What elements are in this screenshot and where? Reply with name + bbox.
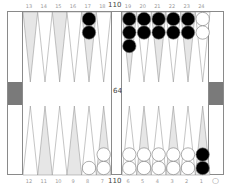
- white-checker[interactable]: [123, 161, 136, 174]
- black-checker[interactable]: [123, 12, 136, 25]
- point-18[interactable]: [96, 12, 111, 82]
- point-label-19: 19: [121, 3, 135, 9]
- black-checker[interactable]: [181, 12, 194, 25]
- point-label-21: 21: [150, 3, 164, 9]
- backgammon-board: 64: [7, 11, 224, 175]
- white-checker[interactable]: [97, 161, 110, 174]
- point-label-20: 20: [136, 3, 150, 9]
- point-9[interactable]: [67, 106, 82, 175]
- point-label-15: 15: [51, 3, 65, 9]
- black-checker[interactable]: [82, 26, 95, 39]
- black-checker[interactable]: [196, 148, 209, 161]
- black-checker[interactable]: [167, 26, 180, 39]
- point-13[interactable]: [23, 12, 38, 82]
- point-label-4: 4: [150, 178, 164, 184]
- point-label-23: 23: [180, 3, 194, 9]
- point-label-9: 9: [66, 178, 80, 184]
- white-checker[interactable]: [123, 148, 136, 161]
- white-checker[interactable]: [82, 161, 95, 174]
- point-15[interactable]: [52, 12, 67, 82]
- point-label-8: 8: [81, 178, 95, 184]
- black-checker[interactable]: [123, 26, 136, 39]
- white-checker[interactable]: [152, 161, 165, 174]
- white-checker[interactable]: [167, 148, 180, 161]
- white-checker[interactable]: [181, 161, 194, 174]
- point-label-1: 1: [194, 178, 208, 184]
- white-checker[interactable]: [152, 148, 165, 161]
- white-checker[interactable]: [196, 12, 209, 25]
- point-label-12: 12: [22, 178, 36, 184]
- point-label-3: 3: [165, 178, 179, 184]
- point-label-22: 22: [165, 3, 179, 9]
- black-checker[interactable]: [137, 12, 150, 25]
- white-checker[interactable]: [97, 148, 110, 161]
- turn-indicator-icon: ○: [212, 176, 219, 185]
- point-10[interactable]: [52, 106, 67, 175]
- black-checker[interactable]: [167, 12, 180, 25]
- black-checker[interactable]: [181, 26, 194, 39]
- point-label-6: 6: [121, 178, 135, 184]
- point-label-17: 17: [81, 3, 95, 9]
- point-14[interactable]: [38, 12, 53, 82]
- point-label-5: 5: [136, 178, 150, 184]
- point-label-2: 2: [180, 178, 194, 184]
- black-checker[interactable]: [82, 12, 95, 25]
- point-11[interactable]: [38, 106, 53, 175]
- point-label-14: 14: [37, 3, 51, 9]
- white-checker[interactable]: [167, 161, 180, 174]
- black-checker[interactable]: [196, 161, 209, 174]
- point-label-16: 16: [66, 3, 80, 9]
- black-checker[interactable]: [152, 12, 165, 25]
- white-checker[interactable]: [196, 26, 209, 39]
- point-12[interactable]: [23, 106, 38, 175]
- black-checker[interactable]: [123, 39, 136, 52]
- black-checker[interactable]: [152, 26, 165, 39]
- pip-count-bottom: 110: [108, 177, 121, 185]
- white-checker[interactable]: [137, 161, 150, 174]
- point-16[interactable]: [67, 12, 82, 82]
- white-checker[interactable]: [137, 148, 150, 161]
- pip-count-top: 110: [108, 1, 121, 9]
- point-label-13: 13: [22, 3, 36, 9]
- black-checker[interactable]: [137, 26, 150, 39]
- point-label-24: 24: [194, 3, 208, 9]
- pip-count-middle: 64: [113, 87, 122, 95]
- point-label-10: 10: [51, 178, 65, 184]
- point-label-11: 11: [37, 178, 51, 184]
- white-checker[interactable]: [181, 148, 194, 161]
